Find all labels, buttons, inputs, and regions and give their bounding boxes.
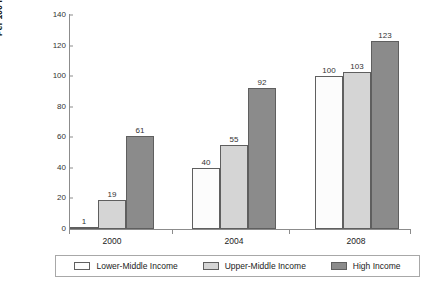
bar-value-label: 103	[350, 63, 363, 71]
x-tick-mark-left	[69, 229, 70, 234]
y-axis-title: Per 100 Inhabitants	[0, 0, 4, 76]
legend-item-label: High Income	[353, 261, 401, 271]
x-tick-label-2000: 2000	[103, 236, 122, 246]
y-tick-label-60: 60	[57, 133, 66, 141]
bar-value-label: 61	[136, 127, 145, 135]
legend-item-label: Lower-Middle Income	[96, 261, 177, 271]
x-tick-mark-2000	[172, 229, 173, 234]
legend-swatch-icon	[74, 262, 90, 270]
plot-area: 0 20 40 60 80 100 120 140 1 19 61 40 55 …	[70, 15, 410, 229]
bar-value-label: 40	[202, 159, 211, 167]
bar-chart: Per 100 Inhabitants 0 20 40 60 80 100 12…	[0, 0, 432, 285]
y-tick-label-20: 20	[57, 194, 66, 202]
y-tick-label-0: 0	[62, 225, 66, 233]
bar-2004-upper-middle-income: 55	[220, 145, 248, 229]
bar-2008-high-income: 123	[371, 41, 399, 229]
bar-2008-upper-middle-income: 103	[343, 72, 371, 230]
legend-item-upper-middle-income: Upper-Middle Income	[203, 261, 306, 271]
x-tick-mark-right	[410, 229, 411, 234]
y-tick-label-40: 40	[57, 164, 66, 172]
x-axis-line	[69, 229, 411, 230]
bar-value-label: 19	[108, 191, 117, 199]
x-tick-label-2004: 2004	[225, 236, 244, 246]
bar-2004-lower-middle-income: 40	[192, 168, 220, 229]
legend-swatch-icon	[203, 262, 219, 270]
bar-value-label: 1	[82, 218, 86, 226]
bar-2008-lower-middle-income: 100	[315, 76, 343, 229]
bar-value-label: 123	[378, 32, 391, 40]
bar-value-label: 55	[230, 136, 239, 144]
y-tick-label-100: 100	[53, 72, 66, 80]
bar-2004-high-income: 92	[248, 88, 276, 229]
bar-2000-lower-middle-income: 1	[70, 227, 98, 229]
x-tick-label-2008: 2008	[347, 236, 366, 246]
bar-2000-upper-middle-income: 19	[98, 200, 126, 229]
bar-value-label: 92	[258, 79, 267, 87]
legend-item-high-income: High Income	[331, 261, 401, 271]
legend-swatch-icon	[331, 262, 347, 270]
legend-item-lower-middle-income: Lower-Middle Income	[74, 261, 177, 271]
y-tick-label-140: 140	[53, 11, 66, 19]
chart-legend: Lower-Middle Income Upper-Middle Income …	[55, 255, 420, 277]
bar-value-label: 100	[322, 67, 335, 75]
y-tick-label-120: 120	[53, 42, 66, 50]
bar-2000-high-income: 61	[126, 136, 154, 229]
legend-item-label: Upper-Middle Income	[225, 261, 306, 271]
x-tick-mark-2004	[289, 229, 290, 234]
y-tick-label-80: 80	[57, 103, 66, 111]
